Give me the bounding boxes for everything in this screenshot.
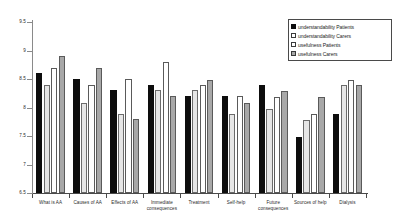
legend-swatch-icon bbox=[291, 33, 296, 38]
bar[interactable] bbox=[170, 96, 176, 193]
bar[interactable] bbox=[207, 80, 213, 193]
bar[interactable] bbox=[163, 62, 169, 193]
x-axis-tick bbox=[329, 194, 330, 198]
bar[interactable] bbox=[118, 114, 124, 193]
x-axis-tick bbox=[180, 194, 181, 198]
bar[interactable] bbox=[244, 103, 250, 193]
legend-item-label: usefulness Patients bbox=[298, 42, 340, 48]
bar[interactable] bbox=[192, 90, 198, 193]
bar[interactable] bbox=[341, 85, 347, 193]
legend: understandability Patients understandabi… bbox=[288, 19, 392, 61]
legend-item[interactable]: understandability Patients bbox=[291, 22, 389, 31]
bar-chart: 9.598.587.576.5 What is AACauses of AAEf… bbox=[0, 0, 396, 223]
bar[interactable] bbox=[110, 90, 116, 193]
bar[interactable] bbox=[237, 96, 243, 193]
legend-item-label: usefulness Carers bbox=[298, 51, 337, 57]
bar[interactable] bbox=[44, 85, 50, 193]
bar[interactable] bbox=[266, 109, 272, 193]
bar-group bbox=[73, 22, 102, 193]
legend-item-label: understandability Carers bbox=[298, 33, 351, 39]
legend-swatch-icon bbox=[291, 42, 296, 47]
bar[interactable] bbox=[148, 85, 154, 193]
bar[interactable] bbox=[356, 85, 362, 193]
bar-group bbox=[259, 22, 288, 193]
x-axis-tick bbox=[218, 194, 219, 198]
x-axis-tick bbox=[106, 194, 107, 198]
bar[interactable] bbox=[333, 114, 339, 193]
bar[interactable] bbox=[88, 85, 94, 193]
bar[interactable] bbox=[200, 85, 206, 193]
bar[interactable] bbox=[155, 90, 161, 193]
bar[interactable] bbox=[281, 91, 287, 193]
bar[interactable] bbox=[96, 68, 102, 193]
bar[interactable] bbox=[125, 79, 131, 193]
bar[interactable] bbox=[318, 97, 324, 193]
x-axis-tick bbox=[292, 194, 293, 198]
legend-item[interactable]: usefulness Carers bbox=[291, 49, 389, 58]
bar[interactable] bbox=[229, 114, 235, 193]
bar-group bbox=[148, 22, 177, 193]
bar[interactable] bbox=[36, 73, 42, 193]
bar[interactable] bbox=[51, 68, 57, 193]
bar-group bbox=[222, 22, 251, 193]
bar-group bbox=[110, 22, 139, 193]
legend-item-label: understandability Patients bbox=[298, 24, 354, 30]
legend-item[interactable]: understandability Carers bbox=[291, 31, 389, 40]
x-axis-tick bbox=[366, 194, 367, 198]
legend-swatch-icon bbox=[291, 51, 296, 56]
bar[interactable] bbox=[348, 80, 354, 193]
bar[interactable] bbox=[59, 56, 65, 193]
bar-group bbox=[36, 22, 65, 193]
bar[interactable] bbox=[274, 97, 280, 193]
x-axis-tick bbox=[69, 194, 70, 198]
bar[interactable] bbox=[222, 96, 228, 193]
bar[interactable] bbox=[73, 79, 79, 193]
bar-group bbox=[185, 22, 214, 193]
x-axis-tick-label: Dialysis bbox=[325, 200, 370, 206]
bar[interactable] bbox=[259, 85, 265, 193]
legend-swatch-icon bbox=[291, 24, 296, 29]
bar[interactable] bbox=[303, 120, 309, 193]
x-axis-tick bbox=[255, 194, 256, 198]
bar[interactable] bbox=[296, 137, 302, 193]
bar[interactable] bbox=[133, 119, 139, 193]
bar[interactable] bbox=[81, 103, 87, 193]
x-axis-tick bbox=[143, 194, 144, 198]
bar[interactable] bbox=[311, 114, 317, 193]
x-axis-tick bbox=[32, 194, 33, 198]
legend-item[interactable]: usefulness Patients bbox=[291, 40, 389, 49]
bar[interactable] bbox=[185, 96, 191, 193]
